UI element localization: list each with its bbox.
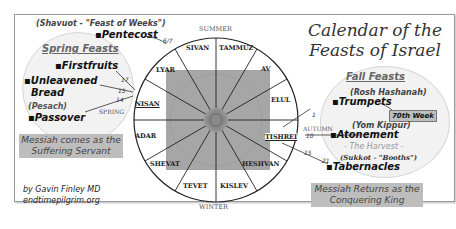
fall-message: Messiah Returns as the Conquering King [311,183,423,207]
atonement-text: Atonement [337,129,399,140]
credit-site: endtimepilgrim.org [23,195,100,206]
trumpets-label: ▪Trumpets [332,96,392,107]
fall-header: Fall Feasts [346,71,405,82]
harvest-label: - The Harvest - [344,142,403,151]
tabernacles-label: ▪Tabernacles [326,161,400,172]
tabernacles-text: Tabernacles [333,161,400,172]
tabernacles-day1: 15 [304,149,312,156]
credit-author: by Gavin Finley MD [23,184,100,195]
trumpets-text: Trumpets [339,96,392,107]
fall-message-line2: Conquering King [313,195,421,206]
credit: by Gavin Finley MD endtimepilgrim.org [23,184,100,206]
atonement-day: 10 [306,132,314,139]
fall-message-line1: Messiah Returns as the [313,184,421,195]
atonement-label: ▪Atonement [330,129,399,140]
trumpets-day: 1 [312,111,316,118]
